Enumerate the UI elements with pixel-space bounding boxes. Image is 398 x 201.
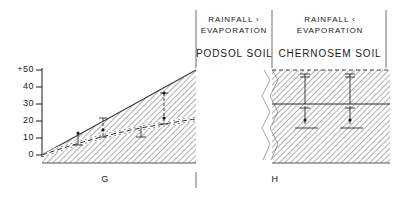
chernosem-condition-line1: RAINFALL ‹ (274, 14, 386, 25)
y-tick-label-30: 30 (2, 98, 34, 108)
y-tick-label-0: 0 (2, 149, 34, 159)
group-label-g: G (90, 174, 120, 184)
chernosem-hatch-block (272, 70, 390, 163)
podsol-condition-line2: EVAPORATION (198, 25, 270, 36)
y-tick-label-20: 20 (2, 115, 34, 125)
axis-break-zigzag (196, 70, 278, 163)
y-tick-label-10: 10 (2, 132, 34, 142)
group-label-h: H (260, 174, 290, 184)
chernosem-condition-line2: EVAPORATION (274, 25, 386, 36)
podsol-condition-line1: RAINFALL › (198, 14, 270, 25)
chernosem-soil-label: CHERNOSEM SOIL (274, 48, 386, 59)
panel-chernosem-plot (272, 70, 390, 163)
panel-podsol-plot (42, 70, 196, 163)
y-tick-label-50: +50 (2, 64, 34, 74)
y-axis (36, 68, 42, 157)
figure-root: +50 40 30 20 10 0 RAINFALL › EVAPORATION… (0, 0, 398, 201)
y-tick-label-40: 40 (2, 81, 34, 91)
podsol-soil-label: PODSOL SOIL (196, 48, 272, 59)
